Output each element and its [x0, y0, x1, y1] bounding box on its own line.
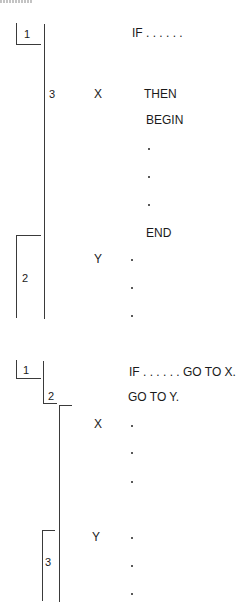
ellipsis-dot: [148, 176, 150, 178]
ellipsis-dot: [131, 259, 133, 261]
box3-number: 3: [45, 555, 51, 569]
box2-number: 2: [22, 271, 28, 285]
code-then: THEN: [144, 87, 177, 101]
ellipsis-dot: [131, 537, 133, 539]
box2-bottom-edge: [43, 403, 57, 404]
box3-left-edge: [42, 530, 43, 601]
label-y: Y: [92, 530, 100, 544]
box1-bottom-edge: [16, 44, 41, 45]
box2-top-edge: [16, 235, 41, 236]
box1-bottom-edge: [16, 378, 41, 379]
ellipsis-dot: [131, 315, 133, 317]
box1-number: 1: [24, 27, 30, 41]
ellipsis-dot: [131, 425, 133, 427]
ellipsis-dot: [131, 565, 133, 567]
code-begin: BEGIN: [146, 113, 183, 127]
ellipsis-dot: [131, 452, 133, 454]
ellipsis-dot: [131, 481, 133, 483]
box3-main-line: [44, 24, 45, 319]
box1-left-edge: [16, 360, 17, 379]
label-y: Y: [94, 252, 102, 266]
code-if: IF . . . . . .: [132, 26, 183, 40]
box2-left-edge: [16, 235, 17, 318]
ellipsis-dot: [148, 204, 150, 206]
label-x: X: [94, 417, 102, 431]
box2-number: 2: [48, 389, 54, 403]
top-cropped-text-fragment: [0, 0, 32, 3]
box1-left-edge: [16, 23, 17, 45]
code-end: END: [146, 226, 171, 240]
ellipsis-dot: [148, 148, 150, 150]
box1-number: 1: [23, 363, 29, 377]
ellipsis-dot: [131, 287, 133, 289]
box2-line: [43, 361, 44, 404]
label-x: X: [94, 87, 102, 101]
code-if-goto-x: IF . . . . . . GO TO X.: [129, 365, 236, 379]
code-goto-y: GO TO Y.: [128, 390, 179, 404]
main-line-top-tick: [59, 405, 72, 406]
ellipsis-dot: [131, 593, 133, 595]
box3-top-edge: [42, 530, 55, 531]
box3-number: 3: [49, 87, 55, 101]
main-line: [59, 405, 60, 602]
